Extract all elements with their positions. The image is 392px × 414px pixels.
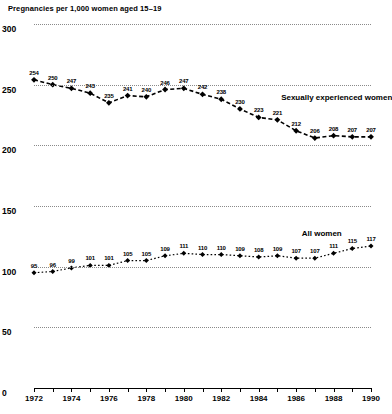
data-point-label: 240	[142, 87, 151, 93]
data-point-label: 250	[48, 75, 57, 81]
data-point-marker	[200, 252, 205, 257]
data-point-marker	[106, 100, 112, 106]
data-point-label: 207	[366, 127, 375, 133]
y-axis-tick-label: 100	[2, 267, 16, 277]
data-point-label: 111	[179, 243, 188, 249]
data-point-label: 223	[254, 107, 263, 113]
data-point-label: 254	[29, 70, 38, 76]
data-point-marker	[125, 258, 130, 263]
data-point-label: 242	[198, 84, 207, 90]
data-point-marker	[32, 270, 37, 275]
data-point-label: 230	[235, 99, 244, 105]
series-label: All women	[302, 229, 342, 238]
data-point-label: 96	[50, 262, 56, 268]
chart-title: Pregnancies per 1,000 women aged 15–19	[8, 4, 161, 13]
series-label: Sexually experienced women	[281, 93, 392, 102]
gridline	[34, 145, 371, 146]
data-point-label: 108	[254, 247, 263, 253]
data-point-marker	[143, 94, 149, 100]
x-axis-tick	[53, 388, 54, 392]
y-axis-tick-label: 150	[2, 206, 16, 216]
data-point-label: 95	[31, 263, 37, 269]
data-point-marker	[69, 85, 75, 91]
x-axis-tick	[259, 388, 260, 392]
data-point-label: 109	[273, 246, 282, 252]
y-axis-tick-label: 300	[2, 24, 16, 34]
x-axis-tick	[221, 388, 222, 392]
data-point-marker	[31, 77, 37, 83]
x-axis-tick-label: 1986	[287, 394, 305, 403]
data-point-marker	[218, 96, 224, 102]
gridline	[34, 206, 371, 207]
x-axis-tick-label: 1974	[63, 394, 81, 403]
x-axis-tick	[352, 388, 353, 392]
data-point-label: 206	[310, 128, 319, 134]
data-point-label: 247	[179, 78, 188, 84]
data-point-marker	[312, 256, 317, 261]
data-point-label: 101	[104, 255, 113, 261]
x-axis-tick-label: 1988	[325, 394, 343, 403]
data-point-label: 107	[310, 248, 319, 254]
data-point-label: 111	[329, 243, 338, 249]
data-point-marker	[144, 258, 149, 263]
x-axis-tick	[203, 388, 204, 392]
gridline	[34, 327, 371, 328]
y-axis-tick-label: 50	[2, 327, 11, 337]
x-axis-tick-label: 1980	[175, 394, 193, 403]
x-axis-tick	[334, 388, 335, 392]
data-point-marker	[50, 269, 55, 274]
data-point-label: 101	[85, 255, 94, 261]
y-axis-tick-label: 200	[2, 145, 16, 155]
x-axis-tick	[371, 388, 372, 392]
data-point-label: 110	[198, 245, 207, 251]
data-point-marker	[181, 251, 186, 256]
x-axis-tick-label: 1978	[137, 394, 155, 403]
data-point-marker	[163, 253, 168, 258]
gridline	[34, 24, 371, 25]
data-point-marker	[312, 135, 318, 141]
data-point-marker	[256, 115, 262, 121]
data-point-marker	[331, 251, 336, 256]
data-point-marker	[162, 87, 168, 93]
data-point-label: 221	[273, 110, 282, 116]
data-point-label: 109	[160, 246, 169, 252]
x-axis-tick	[277, 388, 278, 392]
x-axis-tick-label: 1990	[362, 394, 380, 403]
data-point-marker	[294, 256, 299, 261]
data-point-marker	[200, 91, 206, 97]
x-axis-tick	[165, 388, 166, 392]
x-axis-tick	[240, 388, 241, 392]
x-axis-tick-label: 1982	[212, 394, 230, 403]
data-point-label: 99	[68, 258, 74, 264]
data-point-marker	[87, 90, 93, 96]
data-point-label: 117	[366, 236, 375, 242]
x-axis-tick	[146, 388, 147, 392]
y-axis-tick-label: 250	[2, 85, 16, 95]
data-point-label: 247	[67, 78, 76, 84]
data-point-marker	[331, 133, 337, 139]
data-point-label: 235	[104, 93, 113, 99]
data-point-label: 212	[291, 121, 300, 127]
data-point-label: 105	[123, 251, 132, 257]
data-point-marker	[349, 134, 355, 140]
x-axis-tick-label: 1976	[100, 394, 118, 403]
data-point-marker	[368, 134, 374, 140]
data-point-label: 241	[123, 86, 132, 92]
data-point-label: 243	[85, 83, 94, 89]
x-axis-tick	[296, 388, 297, 392]
data-point-label: 115	[348, 238, 357, 244]
data-point-marker	[256, 254, 261, 259]
data-point-marker	[274, 117, 280, 123]
x-axis-tick	[109, 388, 110, 392]
data-point-label: 107	[291, 248, 300, 254]
data-point-label: 238	[217, 89, 226, 95]
data-point-marker	[275, 253, 280, 258]
x-axis-tick	[34, 388, 35, 392]
x-axis-tick	[184, 388, 185, 392]
data-point-label: 110	[217, 245, 226, 251]
data-point-label: 207	[348, 127, 357, 133]
x-axis-tick	[71, 388, 72, 392]
y-axis-tick-label: 0	[2, 388, 7, 398]
data-point-marker	[237, 106, 243, 112]
